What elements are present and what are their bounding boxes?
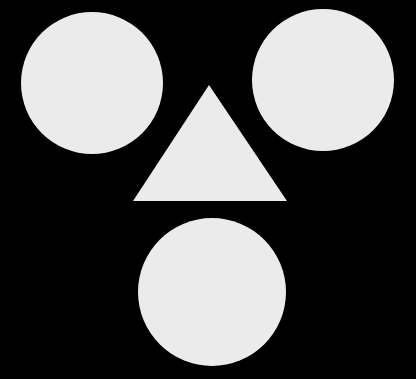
top-right-circle (252, 9, 394, 151)
bottom-center-circle (138, 218, 286, 366)
image-canvas: Three circles and a triangle on black ba… (0, 0, 416, 379)
shapes-figure (0, 0, 416, 379)
top-left-circle (21, 12, 163, 154)
